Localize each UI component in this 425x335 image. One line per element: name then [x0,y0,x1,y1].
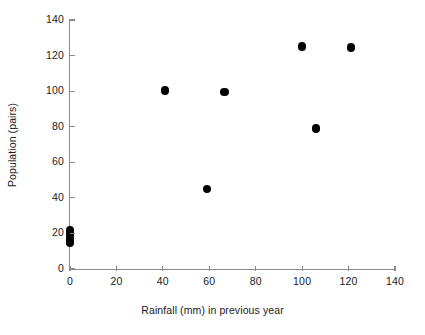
y-axis-tick [70,19,75,20]
y-axis-tick-label-text: 80 [28,121,64,132]
y-axis-title: Population (pairs) [6,103,18,187]
y-axis-tick-label-text: 100 [28,85,64,96]
x-axis-line [69,269,396,270]
x-axis-tick-label: 40 [143,276,183,287]
y-axis-tick-label-text: 20 [28,227,64,238]
x-axis-tick [69,266,70,271]
x-axis-title: Rainfall (mm) in previous year [0,304,425,316]
y-axis-tick [70,55,75,56]
y-axis-tick-label: 20 [20,227,64,238]
data-point [220,88,229,97]
y-axis-tick-label: 0 [20,263,64,274]
y-axis-tick-label-text: 60 [28,156,64,167]
y-axis-title-wrap: Population (pairs) [0,0,24,290]
data-point [347,43,356,52]
x-axis-tick [394,266,395,271]
y-axis-tick-label: 80 [20,121,64,132]
y-axis-tick-label: 120 [20,50,64,61]
y-axis-tick-label-text: 120 [28,50,64,61]
x-axis-tick [116,266,117,271]
y-axis-tick-label-text: 40 [28,192,64,203]
scatter-plot-figure: 020406080100120140 020406080100120140 Po… [0,0,425,335]
y-axis-tick [70,197,75,198]
data-point [298,42,307,51]
x-axis-tick [348,266,349,271]
x-axis-tick-label: 80 [236,276,276,287]
y-axis-tick-label: 140 [20,14,64,25]
x-axis-tick [162,266,163,271]
data-point [161,86,170,95]
x-axis-tick-label: 100 [282,276,322,287]
y-axis-tick-label: 100 [20,85,64,96]
data-point [312,124,321,133]
x-axis-tick [209,266,210,271]
y-axis-tick [70,233,75,234]
y-axis-tick [70,162,75,163]
y-axis-tick [70,126,75,127]
x-axis-tick-label: 120 [329,276,369,287]
x-axis-tick [302,266,303,271]
y-axis-tick [70,91,75,92]
y-axis-tick-label: 40 [20,192,64,203]
x-axis-tick-label: 0 [50,276,90,287]
y-axis-tick-label: 60 [20,156,64,167]
x-axis-tick-label: 60 [189,276,229,287]
data-point [203,185,212,194]
data-point [66,238,75,247]
x-axis-tick-label: 20 [96,276,136,287]
y-axis-tick [70,268,75,269]
x-axis-tick [255,266,256,271]
y-axis-tick-label-text: 0 [28,263,64,274]
y-axis-tick-label-text: 140 [28,14,64,25]
x-axis-tick-label: 140 [375,276,415,287]
